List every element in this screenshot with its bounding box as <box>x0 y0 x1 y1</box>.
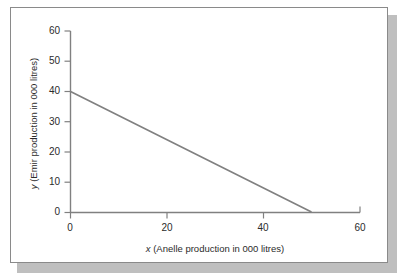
y-axis-title: y (Emir production in 000 litres) <box>28 34 39 214</box>
y-axis-title-text: (Emir production in 000 litres) <box>28 58 39 185</box>
y-tick-label-40: 40 <box>38 85 60 96</box>
y-tick-label-10: 10 <box>38 176 60 187</box>
x-axis-title-text: (Anelle production in 000 litres) <box>151 243 285 254</box>
x-tick-label-60: 60 <box>347 222 373 233</box>
chart-plot-area: 60 50 40 30 20 10 0 0 20 40 60 x (Anelle… <box>0 0 401 280</box>
y-axis-title-variable: y <box>28 184 39 189</box>
x-axis-title: x (Anelle production in 000 litres) <box>70 243 360 254</box>
y-tick-label-20: 20 <box>38 146 60 157</box>
y-tick-label-50: 50 <box>38 55 60 66</box>
x-tick-label-20: 20 <box>154 222 180 233</box>
chart-svg <box>0 0 401 280</box>
y-tick-label-60: 60 <box>38 25 60 36</box>
x-tick-label-0: 0 <box>57 222 83 233</box>
ppf-line <box>71 92 312 213</box>
y-tick-label-0: 0 <box>38 206 60 217</box>
x-tick-label-40: 40 <box>250 222 276 233</box>
y-tick-label-30: 30 <box>38 116 60 127</box>
